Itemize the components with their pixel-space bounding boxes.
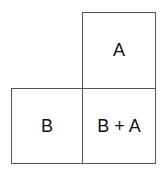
cell-b: B (11, 88, 83, 164)
cell-b-label: B (41, 116, 53, 137)
cell-b-plus-a-label: B + A (97, 116, 141, 137)
cell-b-plus-a: B + A (82, 88, 156, 164)
cell-a-label: A (113, 40, 125, 61)
cell-a: A (82, 12, 156, 89)
